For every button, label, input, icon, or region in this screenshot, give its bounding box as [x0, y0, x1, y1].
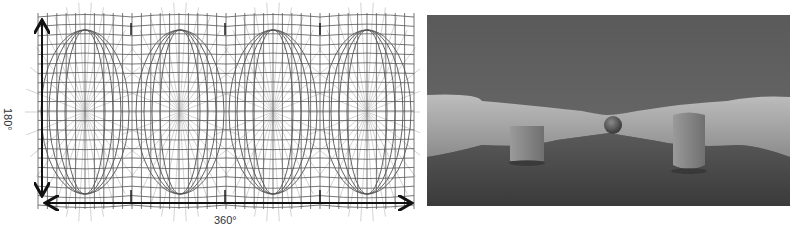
- sphere-object: [604, 116, 622, 134]
- cylinder-object: [673, 113, 705, 170]
- grid-diagram: [0, 0, 420, 233]
- horizontal-span-label: 360°: [214, 214, 237, 226]
- equirectangular-render-image: [427, 15, 790, 206]
- vertical-span-label: 180°: [2, 108, 14, 131]
- equirectangular-grid-figure: 360° 180°: [0, 0, 420, 233]
- rendered-room-scene: [427, 15, 790, 206]
- cube-object: [510, 126, 544, 161]
